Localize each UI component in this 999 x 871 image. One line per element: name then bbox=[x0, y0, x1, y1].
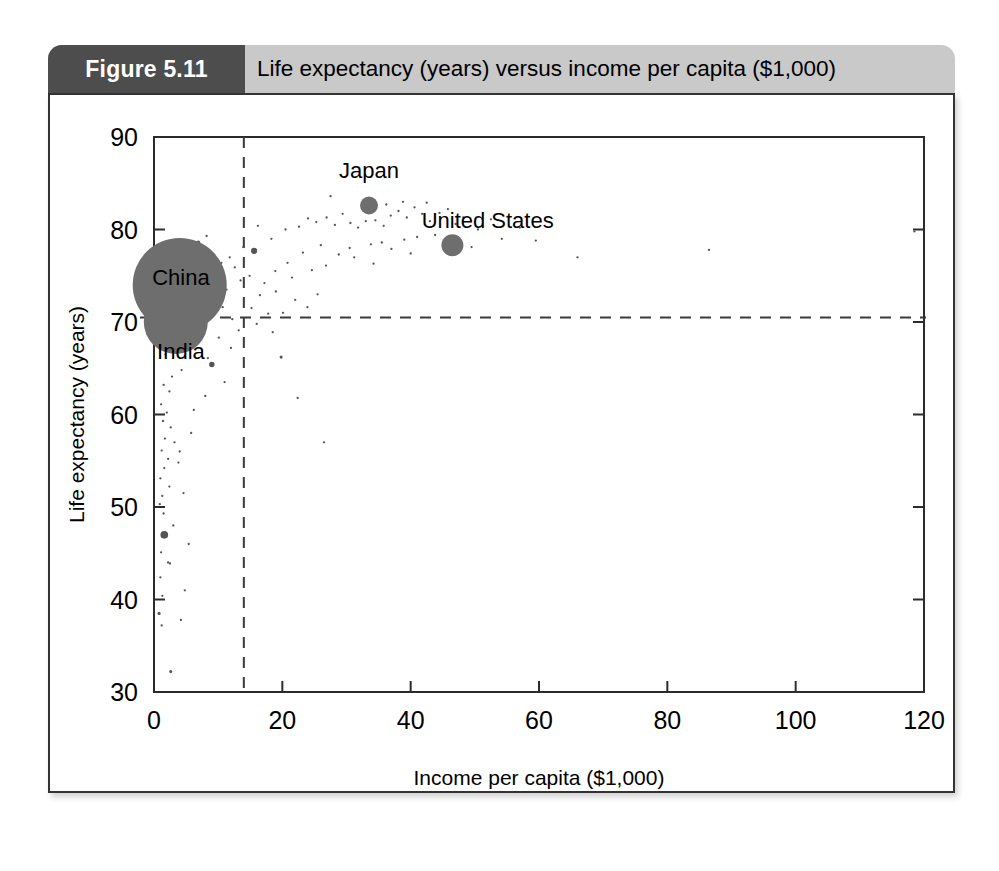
y-tick-label: 30 bbox=[110, 678, 138, 706]
data-point bbox=[307, 217, 309, 219]
figure-header-bar: Figure 5.11 Life expectancy (years) vers… bbox=[48, 45, 955, 93]
data-point bbox=[204, 395, 206, 397]
data-point bbox=[370, 243, 372, 245]
data-point bbox=[229, 256, 231, 258]
figure-number-label: Figure 5.11 bbox=[85, 56, 207, 83]
annotation-china: China bbox=[152, 265, 210, 290]
x-tick-label: 20 bbox=[268, 706, 296, 734]
data-point bbox=[311, 269, 313, 271]
data-point bbox=[159, 576, 161, 578]
data-point bbox=[188, 543, 190, 545]
data-point bbox=[207, 357, 209, 359]
data-point bbox=[167, 458, 169, 460]
data-point bbox=[381, 241, 383, 243]
data-point bbox=[390, 214, 392, 216]
data-point bbox=[162, 420, 164, 422]
data-point bbox=[535, 239, 537, 241]
data-point bbox=[193, 409, 195, 411]
data-point bbox=[205, 235, 207, 237]
y-tick-label: 80 bbox=[110, 216, 138, 244]
data-point bbox=[159, 477, 161, 479]
data-point bbox=[172, 524, 174, 526]
data-point bbox=[231, 318, 233, 320]
data-point bbox=[256, 323, 258, 325]
figure-number-badge: Figure 5.11 bbox=[48, 45, 245, 93]
data-point bbox=[338, 253, 340, 255]
data-point bbox=[385, 203, 387, 205]
data-point bbox=[158, 612, 161, 615]
data-point bbox=[167, 561, 169, 563]
data-point bbox=[397, 210, 399, 212]
data-point bbox=[353, 256, 355, 258]
data-point bbox=[315, 221, 317, 223]
data-point bbox=[160, 551, 162, 553]
data-point bbox=[365, 220, 367, 222]
data-point bbox=[251, 248, 257, 254]
data-point bbox=[267, 313, 269, 315]
data-point bbox=[171, 375, 173, 377]
data-point bbox=[329, 195, 331, 197]
x-tick-label: 60 bbox=[525, 706, 553, 734]
data-point bbox=[913, 230, 915, 232]
x-tick-label: 120 bbox=[903, 706, 945, 734]
data-point bbox=[341, 213, 343, 215]
data-point bbox=[161, 624, 163, 626]
data-point bbox=[374, 219, 376, 221]
data-point bbox=[316, 293, 318, 295]
data-point bbox=[209, 362, 214, 367]
data-point bbox=[501, 238, 503, 240]
data-point bbox=[250, 307, 252, 309]
y-tick-label: 50 bbox=[110, 493, 138, 521]
data-point bbox=[357, 226, 359, 228]
data-point bbox=[222, 306, 224, 308]
data-point bbox=[190, 432, 192, 434]
data-point bbox=[294, 299, 296, 301]
x-axis-title: Income per capita ($1,000) bbox=[414, 766, 665, 789]
data-point bbox=[349, 222, 351, 224]
data-point bbox=[416, 236, 418, 238]
data-point bbox=[239, 279, 241, 281]
data-point bbox=[162, 384, 164, 386]
data-point bbox=[259, 294, 261, 296]
data-points bbox=[158, 195, 916, 673]
data-point bbox=[403, 239, 405, 241]
data-point bbox=[383, 225, 385, 227]
y-tick-label: 60 bbox=[110, 401, 138, 429]
annotation-united-states: United States bbox=[422, 208, 554, 233]
data-point bbox=[297, 397, 299, 399]
data-point bbox=[413, 206, 415, 208]
data-point bbox=[372, 263, 374, 265]
data-point bbox=[180, 619, 182, 621]
data-point bbox=[306, 306, 308, 308]
data-point bbox=[166, 411, 168, 413]
data-point bbox=[161, 449, 163, 451]
data-point bbox=[272, 331, 274, 333]
data-point bbox=[159, 503, 161, 505]
data-point bbox=[390, 248, 392, 250]
y-axis-title: Life expectancy (years) bbox=[65, 306, 88, 523]
data-point bbox=[161, 495, 163, 497]
data-point bbox=[223, 381, 225, 383]
y-tick-label: 40 bbox=[110, 586, 138, 614]
data-point bbox=[218, 337, 220, 339]
data-point bbox=[291, 276, 293, 278]
figure-body: 02040608010012030405060708090ChinaIndiaJ… bbox=[48, 93, 955, 793]
data-point bbox=[263, 282, 265, 284]
data-point bbox=[182, 492, 184, 494]
data-point bbox=[242, 246, 244, 248]
data-point bbox=[426, 202, 428, 204]
scatter-chart: 02040608010012030405060708090ChinaIndiaJ… bbox=[50, 95, 953, 791]
data-point bbox=[163, 467, 165, 469]
data-point bbox=[179, 450, 181, 452]
data-point bbox=[334, 224, 336, 226]
data-point bbox=[284, 228, 286, 230]
y-tick-label: 90 bbox=[110, 123, 138, 151]
data-point bbox=[349, 247, 351, 249]
data-point bbox=[402, 201, 404, 203]
data-point bbox=[248, 275, 250, 277]
figure-container: Figure 5.11 Life expectancy (years) vers… bbox=[48, 45, 955, 793]
data-point bbox=[470, 246, 472, 248]
x-tick-label: 0 bbox=[147, 706, 161, 734]
data-point bbox=[275, 290, 277, 292]
data-point bbox=[161, 595, 163, 597]
